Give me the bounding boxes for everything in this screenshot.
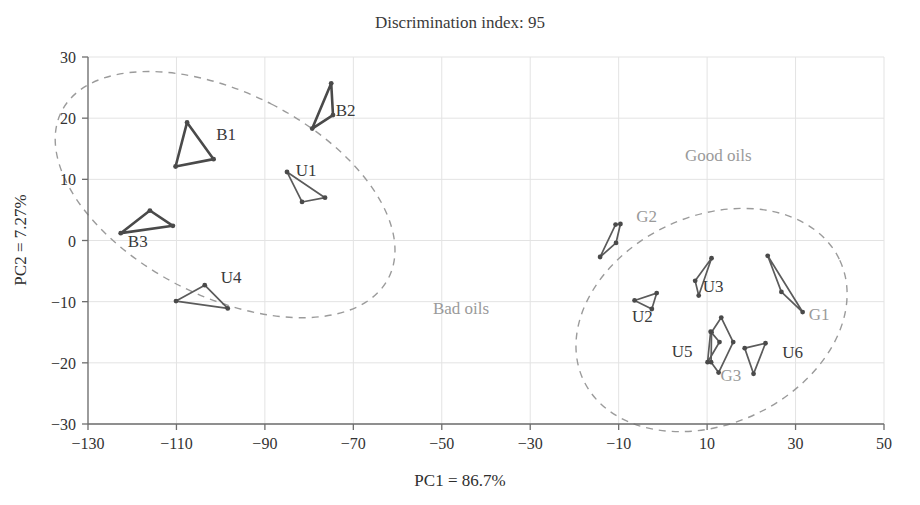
- data-point: [693, 278, 698, 283]
- data-point: [185, 120, 190, 125]
- group-label-u2: U2: [632, 307, 653, 326]
- data-point: [709, 256, 714, 261]
- group-polygon-u5: [708, 332, 720, 363]
- confidence-ellipse-good-oils: [539, 166, 883, 474]
- x-tick-label: −110: [160, 435, 192, 452]
- group-label-b1: B1: [216, 125, 236, 144]
- data-point: [654, 291, 659, 296]
- data-point: [763, 341, 768, 346]
- x-tick-label: −130: [71, 435, 104, 452]
- axis-layer: −130−110−90−70−50−30−101030503020100−10−…: [51, 49, 892, 452]
- data-point: [118, 231, 123, 236]
- label-layer: B1B2B3U1U4G1G2G3U2U3U5U6Bad oilsGood oil…: [128, 101, 830, 385]
- group-polygon-b3: [121, 211, 173, 234]
- data-point: [329, 81, 334, 86]
- group-label-g1: G1: [809, 305, 830, 324]
- data-point: [705, 360, 710, 365]
- x-tick-label: 30: [788, 435, 804, 452]
- group-label-b3: B3: [128, 232, 148, 251]
- group-polygon-b2: [312, 83, 333, 128]
- x-tick-label: −90: [252, 435, 277, 452]
- data-point: [323, 195, 328, 200]
- group-label-u4: U4: [221, 268, 242, 287]
- plot-svg: −130−110−90−70−50−30−101030503020100−10−…: [0, 0, 920, 505]
- x-tick-label: −70: [341, 435, 366, 452]
- x-tick-label: −30: [518, 435, 543, 452]
- data-point: [300, 200, 305, 205]
- chart-title: Discrimination index: 95: [375, 13, 545, 32]
- y-tick-label: 0: [68, 233, 76, 250]
- group-polygon-g3: [711, 318, 733, 373]
- data-point: [225, 306, 230, 311]
- x-tick-label: −50: [429, 435, 454, 452]
- group-label-u1: U1: [296, 161, 317, 180]
- confidence-ellipse-bad-oils: [15, 21, 434, 369]
- data-point: [696, 293, 701, 298]
- x-tick-label: −10: [606, 435, 631, 452]
- x-tick-label: 50: [876, 435, 892, 452]
- data-point: [171, 223, 176, 228]
- data-point: [614, 241, 619, 246]
- group-label-g3: G3: [720, 366, 741, 385]
- group-label-g2: G2: [636, 207, 657, 226]
- group-label-u6: U6: [782, 343, 803, 362]
- group-polygon-u4: [176, 285, 228, 308]
- y-tick-label: −30: [51, 416, 76, 433]
- cluster-annotation-bad-oils: Bad oils: [433, 299, 489, 318]
- data-point: [717, 340, 722, 345]
- group-polygon-g1: [768, 256, 803, 312]
- data-point: [202, 283, 207, 288]
- group-polygon-u6: [745, 343, 766, 374]
- data-point: [310, 126, 315, 131]
- data-point: [174, 299, 179, 304]
- group-label-b2: B2: [336, 101, 356, 120]
- x-tick-label: 10: [699, 435, 715, 452]
- data-point: [173, 164, 178, 169]
- grid-layer: [88, 57, 884, 424]
- data-point: [632, 298, 637, 303]
- x-axis-title: PC1 = 86.7%: [414, 471, 505, 490]
- data-point: [211, 157, 216, 162]
- data-point: [613, 222, 618, 227]
- pca-scatter-plot: −130−110−90−70−50−30−101030503020100−10−…: [0, 0, 920, 505]
- data-point: [742, 346, 747, 351]
- cluster-annotation-good-oils: Good oils: [685, 146, 752, 165]
- group-polygon-b1: [176, 122, 214, 166]
- data-point: [779, 289, 784, 294]
- data-point: [751, 371, 756, 376]
- data-point: [598, 255, 603, 260]
- data-point: [708, 329, 713, 334]
- data-point: [731, 340, 736, 345]
- data-point: [765, 253, 770, 258]
- y-tick-label: 20: [60, 110, 76, 127]
- data-point: [148, 208, 153, 213]
- y-tick-label: 10: [60, 171, 76, 188]
- data-point: [618, 222, 623, 227]
- data-point: [719, 315, 724, 320]
- group-label-u3: U3: [703, 277, 724, 296]
- y-tick-label: −10: [51, 294, 76, 311]
- y-tick-label: −20: [51, 355, 76, 372]
- y-tick-label: 30: [60, 49, 76, 66]
- data-point: [800, 310, 805, 315]
- data-point: [285, 170, 290, 175]
- group-label-u5: U5: [672, 342, 693, 361]
- y-axis-title: PC2 = 7.27%: [11, 194, 30, 285]
